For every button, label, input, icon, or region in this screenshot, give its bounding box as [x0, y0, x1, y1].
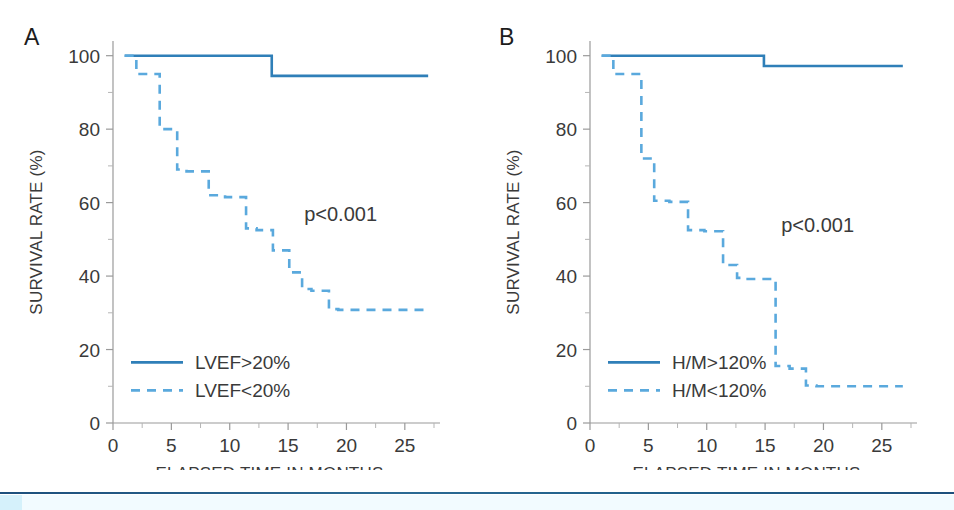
- x-tick-label: 15: [278, 435, 299, 456]
- bottom-tint-strip: [0, 495, 954, 510]
- x-tick-label: 0: [585, 435, 596, 456]
- x-tick-label: 25: [394, 435, 415, 456]
- y-tick-label: 100: [68, 46, 100, 67]
- curve-dashed-a: [125, 56, 428, 310]
- bottom-color-swatch: [0, 495, 22, 510]
- panel-b-plot: 0204060801000510152025ELAPSED TIME IN MO…: [477, 0, 954, 470]
- pvalue-annotation: p<0.001: [781, 214, 854, 236]
- panel-a-plot: 0204060801000510152025ELAPSED TIME IN MO…: [0, 0, 477, 470]
- y-tick-label: 80: [79, 119, 100, 140]
- x-tick-label: 10: [219, 435, 240, 456]
- y-axis-title: SURVIVAL RATE (%): [27, 149, 46, 314]
- legend-label: LVEF<20%: [195, 380, 290, 401]
- y-tick-label: 40: [556, 266, 577, 287]
- y-tick-label: 20: [79, 340, 100, 361]
- x-tick-label: 20: [813, 435, 834, 456]
- y-tick-label: 0: [89, 413, 100, 434]
- bottom-divider-line: [0, 492, 954, 494]
- y-tick-label: 100: [545, 46, 577, 67]
- y-tick-label: 20: [556, 340, 577, 361]
- x-tick-label: 5: [643, 435, 654, 456]
- curve-solid-a: [125, 56, 428, 76]
- legend-label: LVEF>20%: [195, 352, 290, 373]
- figure-root: A 0204060801000510152025ELAPSED TIME IN …: [0, 0, 954, 510]
- x-tick-label: 20: [336, 435, 357, 456]
- x-tick-label: 0: [108, 435, 119, 456]
- y-tick-label: 0: [566, 413, 577, 434]
- panel-b: B 0204060801000510152025ELAPSED TIME IN …: [477, 0, 954, 470]
- x-tick-label: 15: [755, 435, 776, 456]
- x-axis-title: ELAPSED TIME IN MONTHS: [633, 464, 861, 470]
- x-axis-title: ELAPSED TIME IN MONTHS: [156, 464, 384, 470]
- legend-label: H/M>120%: [672, 352, 767, 373]
- curve-dashed-b: [602, 56, 903, 387]
- x-tick-label: 25: [871, 435, 892, 456]
- x-tick-label: 5: [166, 435, 177, 456]
- y-tick-label: 60: [79, 193, 100, 214]
- pvalue-annotation: p<0.001: [304, 203, 377, 225]
- panel-a: A 0204060801000510152025ELAPSED TIME IN …: [0, 0, 477, 470]
- curve-solid-b: [602, 56, 903, 66]
- y-axis-title: SURVIVAL RATE (%): [504, 149, 523, 314]
- y-tick-label: 80: [556, 119, 577, 140]
- y-tick-label: 40: [79, 266, 100, 287]
- legend-label: H/M<120%: [672, 380, 767, 401]
- x-tick-label: 10: [696, 435, 717, 456]
- y-tick-label: 60: [556, 193, 577, 214]
